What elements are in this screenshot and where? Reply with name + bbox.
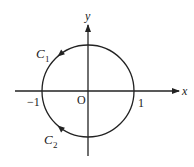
- svg-text:2: 2: [53, 140, 58, 150]
- arrowhead: [58, 126, 65, 133]
- contour-diagram: y x O −1 1 C 1 C 2: [0, 0, 194, 167]
- svg-text:C: C: [44, 132, 53, 147]
- c2-label: C 2: [44, 132, 58, 150]
- x-axis-label: x: [181, 84, 188, 98]
- svg-text:1: 1: [45, 54, 50, 64]
- svg-text:C: C: [36, 46, 45, 61]
- c1-label: C 1: [36, 46, 50, 64]
- c1-direction-arrow-icon: [58, 50, 65, 57]
- tick-label-neg1: −1: [27, 95, 40, 109]
- origin-label: O: [77, 93, 86, 107]
- y-axis-label: y: [84, 9, 91, 23]
- arrowhead: [58, 50, 65, 57]
- tick-label-1: 1: [138, 96, 144, 110]
- c2-direction-arrow-icon: [58, 126, 65, 133]
